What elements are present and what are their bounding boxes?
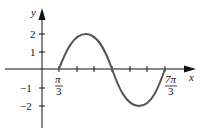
x-tick-label-end-num: 7π <box>165 73 177 85</box>
x-axis-label: x <box>188 71 194 83</box>
y-tick-label-1: 1 <box>30 46 36 58</box>
x-tick-label-start-num: π <box>55 73 61 85</box>
sine-graph: y x 2 1 −1 −2 π 3 7π 3 <box>0 0 203 133</box>
y-axis-arrow-icon <box>39 8 46 20</box>
x-tick-label-start-den: 3 <box>56 85 62 97</box>
y-tick-label-neg2: −2 <box>20 100 32 112</box>
y-tick-label-2: 2 <box>30 28 36 40</box>
x-tick-label-end-den: 3 <box>168 85 174 97</box>
sine-curve <box>59 34 165 106</box>
y-tick-label-neg1: −1 <box>20 82 32 94</box>
y-axis-label: y <box>30 6 36 18</box>
